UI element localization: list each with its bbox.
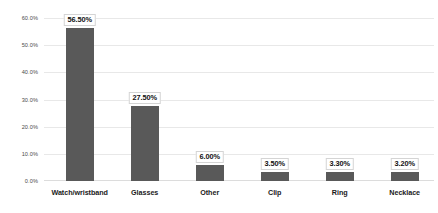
bar[interactable] (66, 28, 94, 181)
gridline-30 (44, 100, 434, 101)
bar-value-label: 3.30% (325, 158, 353, 170)
plot-area: 56.50% 27.50% 6.00% 3.50% 3.30% 3.20% (44, 18, 434, 181)
x-tick-label-clip: Clip (268, 188, 281, 197)
x-tick-label-other: Other (200, 188, 219, 197)
y-tick-label: 50.0% (22, 42, 38, 48)
bar-value-label: 27.50% (128, 92, 160, 104)
bar-value-label: 3.50% (260, 158, 288, 170)
y-tick-label: 0.0% (25, 178, 38, 184)
bar-value-label: 56.50% (63, 14, 95, 26)
gridline-10 (44, 154, 434, 155)
bar-group: 27.50% (131, 18, 159, 181)
bar[interactable] (131, 106, 159, 181)
bar[interactable] (326, 172, 354, 181)
bar-value-label: 6.00% (195, 151, 223, 163)
x-axis: Watch/wristband Glasses Other Clip Ring … (44, 188, 434, 210)
bar[interactable] (261, 172, 289, 182)
bar-value-label: 3.20% (390, 158, 418, 170)
x-tick-label-glasses: Glasses (131, 188, 158, 197)
bar[interactable] (196, 165, 224, 181)
y-axis: 60.0% 50.0% 40.0% 30.0% 20.0% 10.0% 0.0% (0, 0, 44, 213)
gridline-40 (44, 72, 434, 73)
bar-group: 3.30% (326, 18, 354, 181)
x-tick-label-necklace: Necklace (389, 188, 420, 197)
bar[interactable] (391, 172, 419, 181)
bar-group: 6.00% (196, 18, 224, 181)
y-tick-label: 20.0% (22, 124, 38, 130)
gridline-20 (44, 127, 434, 128)
y-tick-label: 10.0% (22, 151, 38, 157)
bar-group: 56.50% (66, 18, 94, 181)
gridline-50 (44, 45, 434, 46)
y-tick-label: 40.0% (22, 69, 38, 75)
y-tick-label: 30.0% (22, 97, 38, 103)
gridline-baseline-0 (44, 180, 434, 181)
bar-chart: 60.0% 50.0% 40.0% 30.0% 20.0% 10.0% 0.0%… (0, 0, 438, 213)
x-tick-label-ring: Ring (332, 188, 348, 197)
x-tick-label-watch-wristband: Watch/wristband (51, 188, 108, 197)
gridline-60 (44, 18, 434, 19)
y-tick-label: 60.0% (22, 15, 38, 21)
bar-group: 3.50% (261, 18, 289, 181)
bar-group: 3.20% (391, 18, 419, 181)
